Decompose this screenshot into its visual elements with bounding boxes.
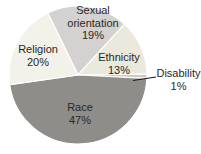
slice-label-disability: Disability 1% (155, 67, 201, 92)
slice-label-text: Religion (8, 43, 68, 56)
slice-label-pct: 20% (8, 56, 68, 69)
slice-label-text: Race (50, 101, 110, 114)
slice-label-pct: 13% (89, 64, 149, 77)
slice-label-pct: 19% (53, 29, 133, 42)
slice-label-text: Ethnicity (89, 51, 149, 64)
slice-label-sexual-orientation: Sexual orientation 19% (53, 4, 133, 42)
slice-label-religion: Religion 20% (8, 43, 68, 68)
slice-label-ethnicity: Ethnicity 13% (89, 51, 149, 76)
slice-label-race: Race 47% (50, 101, 110, 126)
pie-chart-figure: Sexual orientation 19% Religion 20% Ethn… (0, 0, 201, 154)
slice-label-text: Disability (155, 67, 201, 80)
slice-label-pct: 47% (50, 114, 110, 127)
slice-label-pct: 1% (155, 80, 201, 93)
slice-label-text: Sexual orientation (53, 4, 133, 29)
